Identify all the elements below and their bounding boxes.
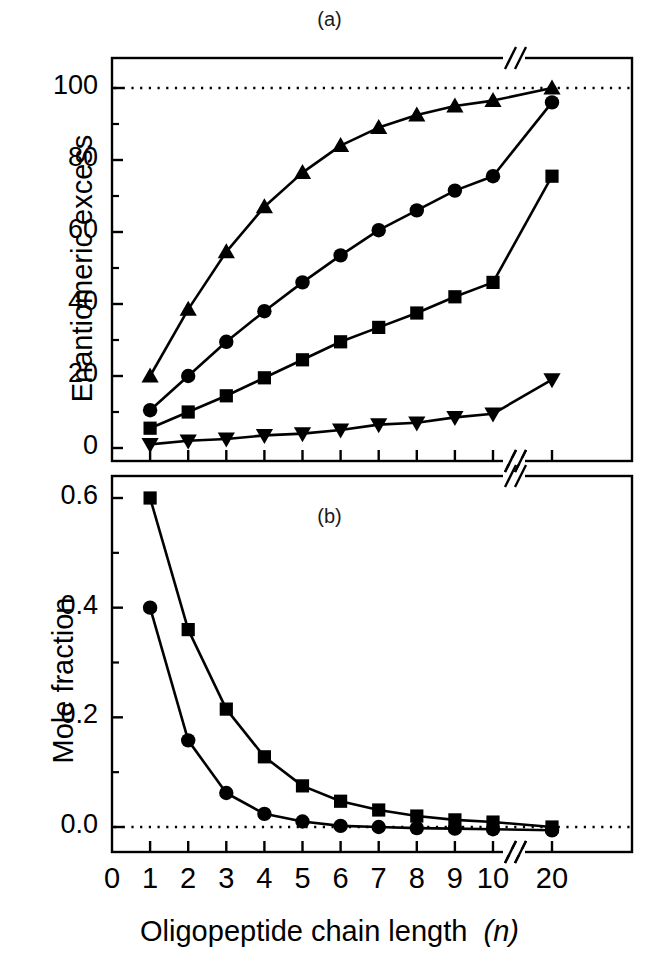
data-point-triangle-down	[142, 438, 159, 453]
panel-b-y-tick-label: 0.6	[0, 480, 98, 511]
panel-a-y-tick-label: 20	[0, 358, 98, 389]
data-point-circle	[545, 823, 559, 837]
series-segment	[150, 309, 188, 376]
panel-a-y-tick-label: 0	[0, 430, 98, 461]
data-point-triangle-up	[180, 301, 197, 316]
x-tick-label: 10	[463, 862, 523, 895]
panel-a-series-square	[144, 170, 559, 435]
data-point-circle	[448, 183, 462, 197]
series-segment	[226, 709, 264, 757]
series-segment	[493, 380, 552, 414]
panel-b-series-square	[144, 491, 559, 833]
data-point-circle	[257, 807, 271, 821]
data-point-square	[334, 795, 347, 808]
panel-a-series-circle	[143, 95, 559, 417]
data-point-square	[296, 353, 309, 366]
data-point-square	[372, 803, 385, 816]
x-tick-label: 20	[522, 862, 582, 895]
data-point-circle	[545, 95, 559, 109]
data-point-square	[258, 750, 271, 763]
data-point-square	[220, 389, 233, 402]
panel-b-series-circle	[143, 600, 559, 837]
data-point-square	[486, 276, 499, 289]
series-segment	[493, 176, 552, 282]
data-point-circle	[143, 403, 157, 417]
data-point-square	[545, 170, 558, 183]
panel-b-y-tick-label: 0.2	[0, 699, 98, 730]
data-point-circle	[486, 169, 500, 183]
panel-a-y-tick-label: 100	[0, 70, 98, 101]
panel-b-frame	[112, 476, 632, 852]
figure-container: (a) (b) Enantiomeric excess Mole fractio…	[0, 0, 659, 970]
data-point-circle	[181, 733, 195, 747]
panel-b-y-tick-label: 0.0	[0, 809, 98, 840]
data-point-circle	[410, 821, 424, 835]
data-point-circle	[181, 369, 195, 383]
series-segment	[226, 207, 264, 252]
data-point-circle	[219, 786, 233, 800]
data-point-square	[144, 491, 157, 504]
panel-b-y-tick-label: 0.4	[0, 590, 98, 621]
data-point-square	[144, 422, 157, 435]
panel-a-y-tick-label: 80	[0, 142, 98, 173]
plot-area	[0, 0, 659, 970]
panel-a-frame	[112, 58, 632, 461]
data-point-circle	[295, 275, 309, 289]
data-point-circle	[372, 223, 386, 237]
data-point-circle	[410, 203, 424, 217]
data-point-square	[334, 335, 347, 348]
panel-a-top-axis-break	[503, 47, 526, 69]
data-point-square	[220, 703, 233, 716]
series-segment	[226, 311, 264, 342]
data-point-circle	[333, 819, 347, 833]
data-point-circle	[333, 248, 347, 262]
panel-a-series-triangle-down	[142, 373, 561, 453]
panel-a-y-tick-label: 60	[0, 214, 98, 245]
data-point-square	[182, 623, 195, 636]
panel-b-bottom-axis-break-top	[503, 841, 526, 863]
data-point-circle	[295, 814, 309, 828]
data-point-square	[410, 809, 423, 822]
data-point-square	[182, 405, 195, 418]
data-point-triangle-up	[294, 164, 311, 179]
series-segment	[493, 102, 552, 176]
data-point-triangle-up	[332, 137, 349, 152]
series-segment	[188, 342, 226, 376]
data-point-square	[448, 290, 461, 303]
series-segment	[493, 88, 552, 101]
data-point-triangle-up	[142, 367, 159, 382]
data-point-circle	[257, 304, 271, 318]
data-point-square	[258, 371, 271, 384]
series-segment	[188, 630, 226, 710]
data-point-circle	[486, 822, 500, 836]
panel-a-y-tick-label: 40	[0, 286, 98, 317]
data-point-circle	[448, 821, 462, 835]
series-segment	[188, 740, 226, 793]
data-point-square	[372, 321, 385, 334]
series-segment	[493, 822, 552, 827]
data-point-square	[410, 306, 423, 319]
data-point-circle	[372, 820, 386, 834]
series-segment	[188, 252, 226, 310]
data-point-triangle-down	[543, 373, 560, 388]
series-segment	[493, 829, 552, 830]
data-point-circle	[143, 600, 157, 614]
data-point-square	[296, 779, 309, 792]
data-point-circle	[219, 335, 233, 349]
